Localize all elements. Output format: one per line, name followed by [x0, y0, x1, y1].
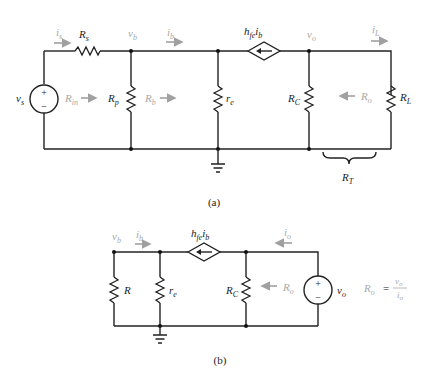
node — [129, 147, 133, 151]
label-rp: Rp — [107, 92, 119, 107]
resistor-rc-b — [242, 277, 250, 303]
label-rb: Rb — [144, 92, 156, 107]
label-dep-source-a: hfeib — [244, 25, 262, 40]
node — [129, 49, 133, 53]
wire — [220, 252, 318, 276]
svg-text:io: io — [397, 290, 404, 302]
label-ib: ib — [167, 26, 174, 41]
caption-a: (a) — [208, 196, 221, 209]
label-vb-b: vb — [112, 230, 121, 245]
svg-text:vo: vo — [395, 276, 403, 288]
label-vo: vo — [307, 28, 316, 43]
svg-text:−: − — [315, 292, 321, 303]
svg-text:−: − — [41, 101, 47, 112]
label-rt: RT — [341, 171, 354, 186]
label-rl: RL — [399, 91, 412, 106]
resistor-rs — [75, 47, 100, 55]
resistor-re — [214, 86, 222, 112]
resistor-rp — [127, 86, 135, 112]
brace-rt — [323, 152, 376, 164]
circuit-a: + − Rs — [16, 23, 412, 209]
voltage-source-vs: + − — [30, 85, 58, 113]
label-rc-b: RC — [225, 284, 239, 299]
dependent-current-source-b — [188, 243, 220, 261]
caption-b: (b) — [214, 354, 227, 367]
resistor-rc — [305, 86, 313, 112]
label-vs: vs — [16, 92, 24, 107]
node — [216, 49, 220, 53]
svg-text:=: = — [383, 282, 389, 294]
node — [244, 324, 248, 328]
node — [112, 250, 116, 254]
label-ro-a: Ro — [360, 90, 372, 105]
label-dep-source-b: hfeib — [191, 227, 209, 242]
wire — [280, 51, 391, 95]
node — [158, 250, 162, 254]
svg-text:+: + — [315, 278, 321, 289]
formula-ro: Ro = vo io — [363, 276, 407, 302]
resistor-r — [110, 277, 118, 303]
circuit-diagram: + − Rs — [0, 0, 428, 372]
label-vo-b: vo — [337, 284, 346, 299]
label-io: io — [284, 226, 291, 241]
svg-text:+: + — [41, 87, 47, 98]
ground-icon — [153, 326, 167, 343]
voltage-source-vo: + − — [304, 276, 332, 304]
resistor-re-b — [156, 277, 164, 303]
label-il: iL — [372, 23, 380, 38]
circuit-b: + − hfeib R re RC vo vb ib io Ro Ro = — [110, 226, 407, 367]
node — [244, 250, 248, 254]
node — [307, 147, 311, 151]
label-ro-b: Ro — [282, 281, 294, 296]
label-re: re — [226, 92, 234, 107]
label-r: R — [123, 284, 131, 296]
label-ib-b: ib — [136, 228, 143, 243]
label-is: is — [56, 26, 62, 41]
label-vb: vb — [128, 27, 137, 42]
ground-icon — [211, 149, 225, 172]
dependent-current-source-a — [248, 42, 280, 60]
svg-text:Ro: Ro — [363, 282, 375, 297]
label-rin: Rin — [64, 92, 78, 107]
label-re-b: re — [169, 284, 177, 299]
label-rs: Rs — [78, 28, 89, 43]
node — [307, 49, 311, 53]
label-rc: RC — [287, 92, 301, 107]
